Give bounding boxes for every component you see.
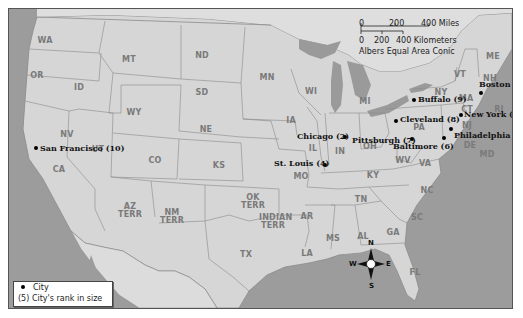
city-label: St. Louis (4): [274, 159, 329, 168]
state-label: IN: [326, 148, 354, 156]
state-label: MO: [287, 173, 315, 181]
city-dot-icon: [34, 146, 38, 150]
state-label: AZ TERR: [116, 203, 144, 219]
city-label: Baltimore (6): [393, 142, 454, 151]
state-label: TN: [347, 196, 375, 204]
state-label: WI: [297, 88, 325, 96]
compass-north: N: [368, 239, 374, 247]
state-label: SD: [188, 89, 216, 97]
state-label: CO: [141, 157, 169, 165]
scale-miles-0: 0: [359, 19, 364, 28]
scale-km-400: 400 Kilometers: [396, 36, 457, 45]
legend-city-row: City: [14, 282, 112, 293]
scale-bar: 0 200 400 Miles 0 200 400 Kilometers Alb…: [367, 19, 455, 56]
legend-rank-label: City's rank in size: [32, 294, 102, 303]
scale-miles-400: 400 Miles: [421, 19, 459, 28]
state-label: MT: [115, 56, 143, 64]
scale-km-200: 200: [374, 36, 389, 45]
city-dot-icon: [21, 285, 25, 289]
state-label: ID: [65, 84, 93, 92]
compass-west: W: [349, 260, 357, 268]
state-label: OK TERR: [239, 194, 267, 210]
state-label: KY: [359, 172, 387, 180]
city-label: Chicago (2): [297, 132, 349, 141]
scale-miles-200: 200: [389, 19, 404, 28]
city-label: Boston (5): [479, 80, 513, 89]
city-label: New York (1): [464, 110, 513, 119]
city-label: Cleveland (8): [400, 115, 460, 124]
state-label: MS: [319, 235, 347, 243]
state-label: OR: [23, 72, 51, 80]
map-legend: City (5) City's rank in size: [13, 281, 113, 307]
state-label: INDIAN TERR: [259, 214, 287, 230]
state-label: MD: [473, 151, 501, 159]
state-label: MN: [253, 74, 281, 82]
state-label: TX: [232, 251, 260, 259]
city-dot-icon: [479, 91, 483, 95]
legend-rank-symbol: (5): [18, 294, 29, 303]
city-dot-icon: [442, 136, 446, 140]
state-label: VA: [411, 160, 439, 168]
state-label: SC: [403, 214, 431, 222]
city-dot-icon: [449, 127, 453, 131]
state-label: VT: [446, 71, 474, 79]
state-label: WY: [120, 109, 148, 117]
projection-label: Albers Equal Area Conic: [359, 47, 455, 56]
city-dot-icon: [412, 98, 416, 102]
compass-east: E: [386, 260, 391, 268]
legend-rank-row: (5) City's rank in size: [14, 293, 112, 304]
city-label: San Francisco (10): [40, 144, 124, 153]
state-label: ME: [479, 53, 507, 61]
city-label: Buffalo (9): [418, 95, 467, 104]
state-label: NC: [413, 187, 441, 195]
scale-km-0: 0: [359, 36, 364, 45]
city-label: Philadelphia (3): [454, 131, 513, 140]
state-label: NM TERR: [158, 209, 186, 225]
state-label: PA: [405, 124, 433, 132]
state-label: MI: [351, 98, 379, 106]
state-label: NV: [53, 131, 81, 139]
state-label: DE: [456, 142, 484, 150]
map-frame: 0 200 400 Miles 0 200 400 Kilometers Alb…: [8, 8, 513, 309]
compass-south: S: [369, 282, 374, 290]
state-label: FL: [401, 269, 429, 277]
state-label: KS: [205, 162, 233, 170]
state-label: NE: [192, 126, 220, 134]
legend-city-label: City: [33, 283, 49, 292]
state-label: CA: [45, 166, 73, 174]
state-label: AR: [293, 213, 321, 221]
city-dot-icon: [394, 119, 398, 123]
city-dot-icon: [459, 113, 463, 117]
state-label: LA: [293, 250, 321, 258]
state-label: IL: [299, 145, 327, 153]
state-label: GA: [379, 229, 407, 237]
state-label: ND: [188, 52, 216, 60]
state-label: WA: [31, 37, 59, 45]
state-label: IA: [277, 117, 305, 125]
